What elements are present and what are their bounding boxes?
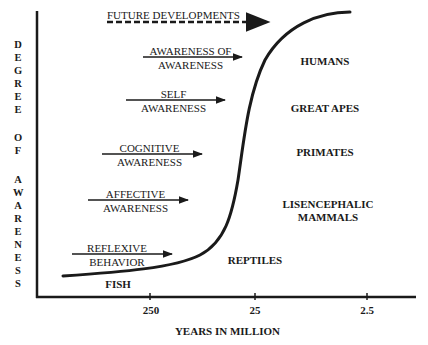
y-axis-letter: W [13, 187, 23, 199]
y-axis-letter: S [13, 278, 23, 290]
species-lisencephalic-line1: LISENCEPHALIC [268, 198, 388, 210]
affective-awareness-line1: AFFECTIVE [88, 188, 183, 200]
y-axis-letter: D [13, 39, 23, 51]
awareness-of-awareness-line1: AWARENESS OF [143, 45, 238, 57]
x-tick-2-5: 2.5 [355, 304, 379, 316]
y-axis-letter: G [13, 65, 23, 77]
y-axis-letter: A [13, 200, 23, 212]
y-axis-letter: N [13, 239, 23, 251]
y-axis-letter: F [13, 145, 23, 157]
future-developments-label: FUTURE DEVELOPMENTS [107, 9, 267, 21]
species-reptiles: REPTILES [215, 254, 295, 266]
species-great-apes: GREAT APES [275, 102, 375, 114]
affective-awareness-line2: AWARENESS [88, 202, 183, 214]
self-awareness-line2: AWARENESS [126, 102, 221, 114]
species-humans: HUMANS [285, 55, 365, 67]
species-primates: PRIMATES [280, 146, 370, 158]
y-axis-letter: R [13, 213, 23, 225]
species-fish: FISH [88, 278, 148, 290]
y-axis-letter: E [13, 104, 23, 116]
y-axis-letter: E [13, 226, 23, 238]
x-tick-25: 25 [245, 304, 265, 316]
reflexive-behavior-line1: REFLEXIVE [72, 242, 162, 254]
y-axis-letter: E [13, 52, 23, 64]
y-axis-letter: E [13, 91, 23, 103]
x-axis-label: YEARS IN MILLION [160, 325, 295, 337]
cognitive-awareness-line1: COGNITIVE [102, 142, 197, 154]
y-axis-letter: S [13, 265, 23, 277]
cognitive-awareness-line2: AWARENESS [102, 156, 197, 168]
reflexive-behavior-line2: BEHAVIOR [72, 256, 162, 268]
y-axis-letter: O [13, 132, 23, 144]
x-tick-250: 250 [139, 304, 163, 316]
y-axis-letter: R [13, 78, 23, 90]
y-axis-letter: A [13, 174, 23, 186]
species-lisencephalic-line2: MAMMALS [268, 211, 388, 223]
y-axis-letter: E [13, 252, 23, 264]
awareness-of-awareness-line2: AWARENESS [143, 59, 238, 71]
self-awareness-line1: SELF [126, 88, 221, 100]
